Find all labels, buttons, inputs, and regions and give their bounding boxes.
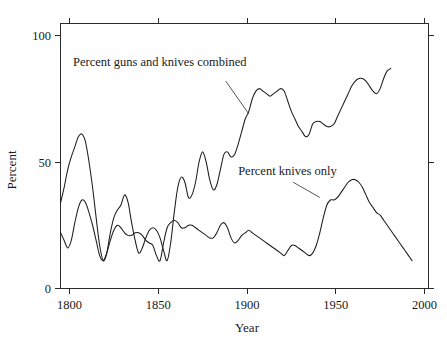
y-tick-label-100: 100 bbox=[32, 29, 51, 43]
annotation-label-guns-and-knives-combined: Percent guns and knives combined bbox=[73, 55, 247, 69]
y-tick-labels: 100 50 0 bbox=[32, 29, 51, 296]
x-axis-ticks-top bbox=[70, 18, 425, 24]
y-axis-ticks-left bbox=[55, 36, 61, 289]
x-axis-title: Year bbox=[235, 320, 260, 335]
x-tick-label-1950: 1950 bbox=[323, 298, 348, 312]
x-axis-ticks-bottom bbox=[70, 289, 425, 295]
annotation-leader-line-knives-only bbox=[293, 182, 320, 197]
annotation-label-knives-only: Percent knives only bbox=[238, 164, 337, 178]
x-tick-label-1900: 1900 bbox=[235, 298, 260, 312]
y-tick-label-0: 0 bbox=[45, 282, 51, 296]
chart-figure: 100 50 0 1800 1850 1900 1950 2000 Year P… bbox=[0, 0, 447, 343]
x-tick-label-2000: 2000 bbox=[412, 298, 437, 312]
series-line-guns-and-knives-combined bbox=[61, 68, 391, 261]
y-axis-title: Percent bbox=[4, 150, 19, 189]
y-tick-label-50: 50 bbox=[39, 156, 52, 170]
y-axis-ticks-right bbox=[429, 36, 435, 289]
annotation-leader-line-guns-and-knives-combined bbox=[226, 81, 249, 114]
x-tick-labels: 1800 1850 1900 1950 2000 bbox=[57, 298, 437, 312]
x-tick-label-1850: 1850 bbox=[146, 298, 171, 312]
x-tick-label-1800: 1800 bbox=[57, 298, 82, 312]
series-group bbox=[61, 68, 412, 261]
line-chart-svg: 100 50 0 1800 1850 1900 1950 2000 Year P… bbox=[0, 0, 447, 343]
